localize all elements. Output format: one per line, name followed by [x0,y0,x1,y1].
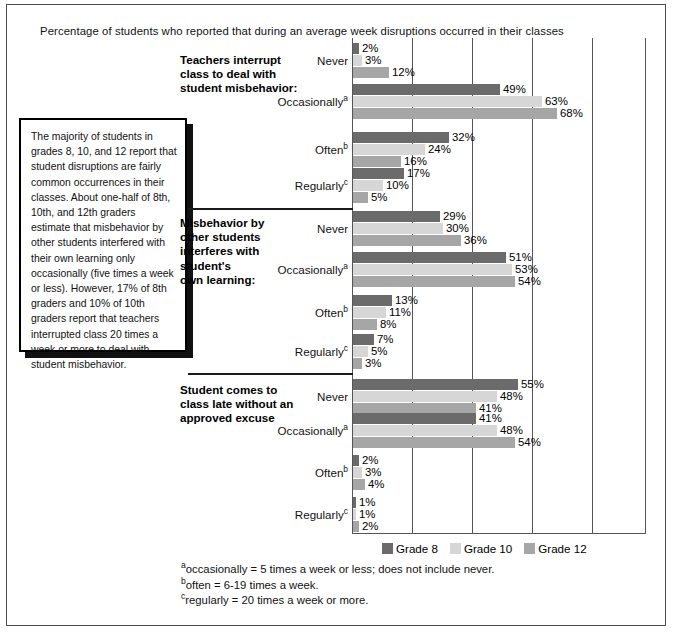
bar [353,467,362,478]
bar-value-label: 10% [386,180,409,191]
bar [353,437,515,448]
bar-value-label: 53% [515,264,538,275]
bar-value-label: 3% [365,467,381,478]
bar [353,276,515,287]
bar-value-label: 24% [428,144,451,155]
bar-value-label: 41% [479,413,502,424]
bar-value-label: 63% [545,96,568,107]
bar [353,509,356,520]
bar [353,235,461,246]
bar [353,252,506,263]
bar-value-label: 48% [500,425,523,436]
bar [353,307,386,318]
bar-value-label: 2% [362,455,378,466]
bar-value-label: 4% [368,479,384,490]
category-label-occasionally: Occasionallya [178,264,348,276]
legend-item-grade-8: Grade 8 [382,542,438,555]
section-divider-1 [188,208,353,210]
category-label-never: Never [178,55,348,67]
bar-value-label: 16% [404,156,427,167]
bar [353,211,440,222]
bar [353,521,359,532]
bar-value-label: 8% [380,319,396,330]
plot-right-edge [645,38,646,534]
bar [353,379,518,390]
bar-value-label: 2% [362,43,378,54]
bar-value-label: 36% [464,235,487,246]
bar-value-label: 13% [395,295,418,306]
legend-label-grade-10: Grade 10 [464,542,512,555]
footnote-text-b: often = 6-19 times a week. [186,579,319,591]
legend-label-grade-12: Grade 12 [538,542,586,555]
bar [353,264,512,275]
bar-value-label: 3% [365,55,381,66]
bar-value-label: 30% [446,223,469,234]
bar-value-label: 68% [560,108,583,119]
category-label-regularly: Regularlyc [178,346,348,358]
bar-value-label: 32% [452,132,475,143]
footnote-a: aoccasionally = 5 times a week or less; … [181,562,494,578]
bar [353,132,449,143]
legend: Grade 8 Grade 10 Grade 12 [382,542,599,555]
bar [353,192,368,203]
bar [353,455,359,466]
bar [353,295,392,306]
bar [353,144,425,155]
callout-text: The majority of students in grades 8, 10… [31,129,177,372]
bar-value-label: 17% [407,168,430,179]
category-label-occasionally: Occasionallya [178,96,348,108]
page-title: Percentage of students who reported that… [40,25,564,37]
bar [353,425,497,436]
legend-swatch-grade-8 [382,543,393,554]
bar [353,223,443,234]
bar [353,180,383,191]
bar-value-label: 5% [371,346,387,357]
bar-value-label: 3% [365,358,381,369]
bar-value-label: 54% [518,276,541,287]
bar [353,108,557,119]
bar-value-label: 12% [392,67,415,78]
bar [353,156,401,167]
bar-value-label: 49% [503,84,526,95]
footnote-c: cregularly = 20 times a week or more. [181,593,494,609]
bar [353,391,497,402]
category-label-often: Oftenb [178,307,348,319]
legend-label-grade-8: Grade 8 [396,542,438,555]
bar-value-label: 2% [362,521,378,532]
bar [353,96,542,107]
gridline-80 [592,38,593,534]
category-label-occasionally: Occasionallya [178,425,348,437]
bar-value-label: 55% [521,379,544,390]
bar [353,67,389,78]
bar [353,358,362,369]
category-label-never: Never [178,391,348,403]
category-label-regularly: Regularlyc [178,180,348,192]
bar [353,334,374,345]
bar [353,403,476,414]
bar-value-label: 54% [518,437,541,448]
legend-swatch-grade-12 [524,543,535,554]
bar-value-label: 51% [509,252,532,263]
plot-area: 2%3%12%49%63%68%32%24%16%17%10%5%29%30%3… [352,38,646,534]
footnote-b: boften = 6-19 times a week. [181,578,494,594]
section-divider-2 [188,373,353,375]
x-axis-line [352,533,646,534]
footnotes: aoccasionally = 5 times a week or less; … [181,562,494,609]
legend-item-grade-12: Grade 12 [524,542,586,555]
bar-value-label: 1% [359,509,375,520]
bar-value-label: 11% [389,307,411,318]
footnote-text-c: regularly = 20 times a week or more. [185,594,368,606]
bar-value-label: 29% [443,211,466,222]
category-label-regularly: Regularlyc [178,509,348,521]
bar [353,497,356,508]
bar [353,346,368,357]
bar-value-label: 1% [359,497,375,508]
callout-box: The majority of students in grades 8, 10… [19,118,187,352]
bar-value-label: 48% [500,391,523,402]
category-label-often: Oftenb [178,144,348,156]
legend-swatch-grade-10 [450,543,461,554]
bar-value-label: 7% [377,334,393,345]
bar [353,413,476,424]
bar [353,319,377,330]
bar [353,479,365,490]
